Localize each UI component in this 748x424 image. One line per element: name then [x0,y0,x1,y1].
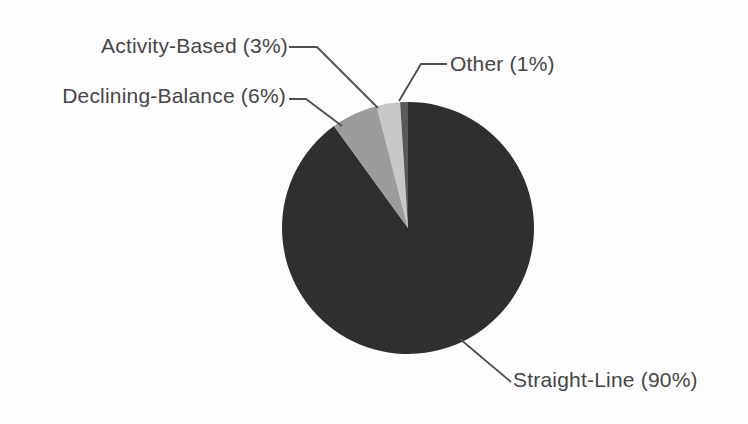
label-straight-line: Straight-Line (90%) [513,368,698,392]
leader-line-declining-balance [289,99,342,126]
label-activity-based: Activity-Based (3%) [101,34,288,58]
pie-chart-figure: Activity-Based (3%) Declining-Balance (6… [0,0,748,424]
label-other: Other (1%) [450,52,555,76]
leader-line-other [399,64,447,101]
pie-chart [0,0,748,424]
label-declining-balance: Declining-Balance (6%) [62,84,286,108]
leader-line-straight-line [460,339,511,382]
